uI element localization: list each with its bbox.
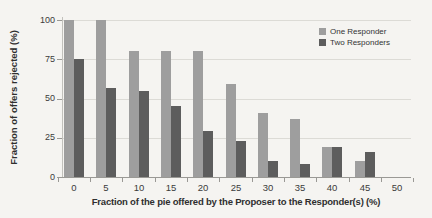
bar-two-responders-30 — [268, 161, 278, 177]
bar-one-responder-30 — [258, 113, 268, 177]
bar-chart: 025507510005101520253035404550 Fraction … — [0, 0, 432, 218]
bar-two-responders-40 — [332, 147, 342, 177]
bar-two-responders-5 — [106, 88, 116, 177]
bar-one-responder-20 — [193, 51, 203, 177]
x-tick-label-35: 35 — [287, 182, 313, 193]
x-tick-1 — [90, 178, 91, 182]
x-axis-line — [62, 177, 411, 178]
legend-label: Two Responders — [330, 38, 390, 47]
x-tick-label-0: 0 — [61, 182, 87, 193]
bar-two-responders-20 — [203, 131, 213, 177]
y-tick-label-75: 75 — [28, 54, 55, 65]
bar-one-responder-0 — [64, 20, 74, 177]
legend-row-1: One Responder — [319, 27, 390, 36]
bar-one-responder-35 — [290, 119, 300, 177]
x-tick-5 — [219, 178, 220, 182]
x-tick-label-25: 25 — [223, 182, 249, 193]
bar-two-responders-15 — [171, 106, 181, 177]
x-axis-title: Fraction of the pie offered by the Propo… — [50, 196, 422, 207]
x-tick-4 — [187, 178, 188, 182]
legend-label: One Responder — [330, 27, 386, 36]
x-tick-9 — [349, 178, 350, 182]
x-tick-6 — [252, 178, 253, 182]
x-tick-label-10: 10 — [126, 182, 152, 193]
legend-swatch-icon — [319, 39, 326, 46]
y-tick-label-25: 25 — [28, 132, 55, 143]
bar-one-responder-45 — [355, 161, 365, 177]
x-tick-7 — [284, 178, 285, 182]
x-tick-11 — [413, 178, 414, 182]
bar-one-responder-5 — [96, 20, 106, 177]
bar-one-responder-25 — [226, 84, 236, 177]
y-axis-line — [62, 17, 63, 178]
x-tick-label-40: 40 — [319, 182, 345, 193]
bar-one-responder-10 — [129, 51, 139, 177]
y-tick-label-100: 100 — [28, 15, 55, 26]
bar-one-responder-40 — [322, 147, 332, 177]
x-tick-0 — [58, 178, 59, 182]
legend: One ResponderTwo Responders — [319, 27, 390, 49]
x-tick-3 — [155, 178, 156, 182]
legend-row-2: Two Responders — [319, 38, 390, 47]
x-tick-label-15: 15 — [158, 182, 184, 193]
bar-two-responders-10 — [139, 91, 149, 177]
y-axis-title: Fraction of offers rejected (%) — [8, 20, 21, 176]
bar-two-responders-45 — [365, 152, 375, 177]
x-tick-label-50: 50 — [384, 182, 410, 193]
gridline-75 — [62, 59, 411, 60]
legend-swatch-icon — [319, 28, 326, 35]
x-tick-label-5: 5 — [93, 182, 119, 193]
y-tick-label-50: 50 — [28, 93, 55, 104]
gridline-100 — [62, 20, 411, 21]
bar-two-responders-35 — [300, 164, 310, 177]
bar-two-responders-0 — [74, 59, 84, 177]
x-tick-label-30: 30 — [255, 182, 281, 193]
x-tick-8 — [316, 178, 317, 182]
x-tick-label-20: 20 — [190, 182, 216, 193]
x-tick-2 — [122, 178, 123, 182]
bar-one-responder-15 — [161, 51, 171, 177]
y-tick-label-0: 0 — [28, 172, 55, 183]
x-tick-label-45: 45 — [352, 182, 378, 193]
x-tick-10 — [381, 178, 382, 182]
bar-two-responders-25 — [236, 141, 246, 177]
